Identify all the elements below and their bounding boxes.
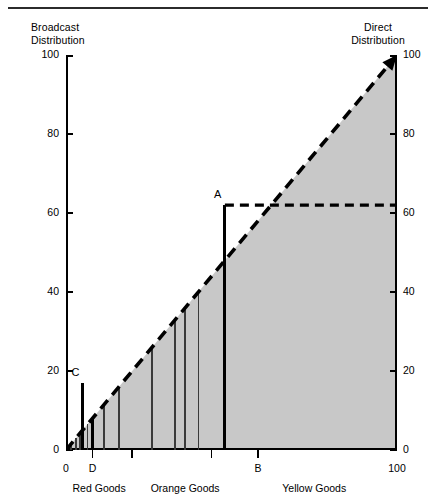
x-axis-tick-D: D: [77, 463, 107, 474]
distribution-bar: [198, 292, 200, 450]
y-axis-left-tick-40: 40: [31, 286, 59, 297]
y-axis-left-tick-100: 100: [31, 49, 59, 60]
y-axis-left-tick-20: 20: [31, 365, 59, 376]
distribution-bar: [91, 418, 94, 450]
y-axis-left-tick-80: 80: [31, 128, 59, 139]
distribution-bar: [184, 308, 186, 450]
y-axis-right-tick-mark: [390, 449, 397, 451]
distribution-bar: [223, 205, 226, 450]
y-axis-right-tick-60: 60: [403, 207, 433, 218]
direct-distribution-caption: Direct Distribution: [330, 21, 426, 47]
distribution-bar: [87, 424, 89, 450]
y-axis-left-tick-60: 60: [31, 207, 59, 218]
y-axis-left-tick-mark: [66, 212, 73, 214]
y-axis-right-tick-mark: [390, 370, 397, 372]
x-axis-tick-100: 100: [382, 463, 412, 474]
y-axis-right-tick-0: 0: [403, 444, 433, 455]
y-axis-right-tick-mark: [390, 212, 397, 214]
section-label-yellow-goods: Yellow Goods: [254, 482, 374, 494]
x-axis-line: [66, 448, 397, 450]
distribution-bar: [151, 347, 153, 450]
header-divider-rule: [8, 7, 428, 9]
x-axis-tick-B: B: [243, 463, 273, 474]
distribution-bar: [70, 444, 72, 450]
y-axis-left-tick-mark: [66, 133, 73, 135]
distribution-bar: [81, 383, 84, 450]
chart-page: Broadcast Distribution Direct Distributi…: [0, 0, 436, 495]
y-axis-left-tick-mark: [66, 291, 73, 293]
x-axis-tick-mark: [211, 450, 213, 458]
y-axis-left-line: [66, 55, 68, 450]
shaded-region: [66, 55, 397, 450]
distribution-bar: [75, 438, 77, 450]
x-axis-tick-mark: [257, 450, 259, 458]
y-axis-right-line: [395, 55, 397, 450]
x-axis-tick-mark: [92, 450, 94, 458]
distribution-bar: [174, 320, 176, 450]
y-axis-right-tick-mark: [390, 291, 397, 293]
plot-area: A C: [66, 55, 397, 450]
y-axis-right-tick-mark: [390, 133, 397, 135]
y-axis-right-tick-20: 20: [403, 365, 433, 376]
broadcast-distribution-caption: Broadcast Distribution: [31, 21, 85, 47]
distribution-bar: [103, 405, 105, 450]
y-axis-right-tick-100: 100: [403, 49, 433, 60]
section-label-orange-goods: Orange Goods: [125, 482, 245, 494]
y-axis-right-tick-40: 40: [403, 286, 433, 297]
point-label-c: C: [72, 367, 80, 378]
x-axis-tick-mark: [131, 450, 133, 458]
point-label-a: A: [214, 189, 221, 200]
y-axis-left-tick-0: 0: [31, 444, 59, 455]
y-axis-left-top-cap: [66, 55, 73, 57]
y-axis-right-tick-80: 80: [403, 128, 433, 139]
distribution-bar: [118, 387, 120, 450]
y-axis-right-top-cap: [390, 55, 397, 57]
